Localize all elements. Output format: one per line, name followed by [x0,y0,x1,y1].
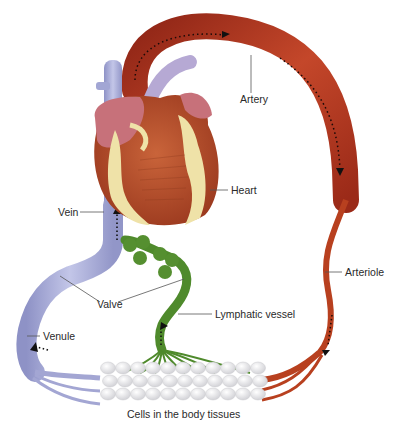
heart [94,93,218,225]
arteriole [262,200,346,400]
flow-arrow-icon [322,350,330,356]
label-vein: Vein [58,206,78,218]
label-venule: Venule [43,330,75,342]
label-arteriole: Arteriole [345,266,384,278]
lymphatic-vessel [123,235,250,373]
label-heart: Heart [231,184,257,196]
label-valve: Valve [97,298,123,310]
label-lymphatic-vessel: Lymphatic vessel [215,308,295,320]
body-tissue-cells [101,362,268,400]
label-artery: Artery [240,93,268,105]
label-cells: Cells in the body tissues [127,408,240,420]
